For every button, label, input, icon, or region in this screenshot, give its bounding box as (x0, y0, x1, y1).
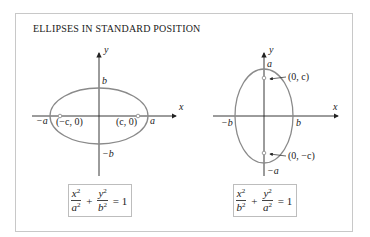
vertex-bottom-label: −a (267, 165, 279, 176)
focus-bottom (262, 151, 266, 155)
focus-top (262, 76, 266, 80)
ellipse-diagrams: x y b −b −a a (−c, 0) (c, 0) x y a −a −b… (0, 0, 370, 237)
vertical-ellipse-diagram: x y a −a −b b (0, c) (0, −c) (213, 44, 338, 176)
horizontal-ellipse-diagram: x y b −b −a a (−c, 0) (c, 0) (32, 44, 184, 176)
y-axis-label: y (268, 44, 274, 55)
focus-bottom-pointer (270, 154, 286, 156)
vertex-left-label: −a (36, 115, 48, 126)
vertex-right-label: a (150, 115, 155, 126)
vertex-bottom-label: −b (102, 148, 114, 159)
fraction-term-2: y2 a2 (262, 188, 272, 213)
vertex-top-label: b (102, 75, 107, 86)
vertex-right-label: b (296, 117, 301, 128)
x-axis-label: x (332, 101, 338, 112)
horizontal-ellipse-equation: x2 a2 + y2 b2 = 1 (68, 184, 132, 217)
focus-top-label: (0, c) (288, 71, 309, 83)
equals-one: = 1 (276, 195, 294, 207)
x-axis-label: x (178, 101, 184, 112)
vertical-ellipse-equation: x2 b2 + y2 a2 = 1 (233, 184, 297, 217)
vertex-top-label: a (267, 58, 272, 69)
y-axis-label: y (103, 44, 109, 55)
plus-operator: + (249, 195, 259, 207)
focus-right-label: (c, 0) (116, 116, 137, 128)
focus-left-label: (−c, 0) (56, 116, 83, 128)
vertex-left-label: −b (221, 117, 233, 128)
focus-bottom-label: (0, −c) (288, 150, 315, 162)
equals-one: = 1 (111, 195, 129, 207)
fraction-term-2: y2 b2 (97, 188, 107, 213)
plus-operator: + (84, 195, 94, 207)
fraction-term-1: x2 b2 (236, 188, 246, 213)
focus-top-pointer (270, 77, 286, 79)
fraction-term-1: x2 a2 (71, 188, 81, 213)
